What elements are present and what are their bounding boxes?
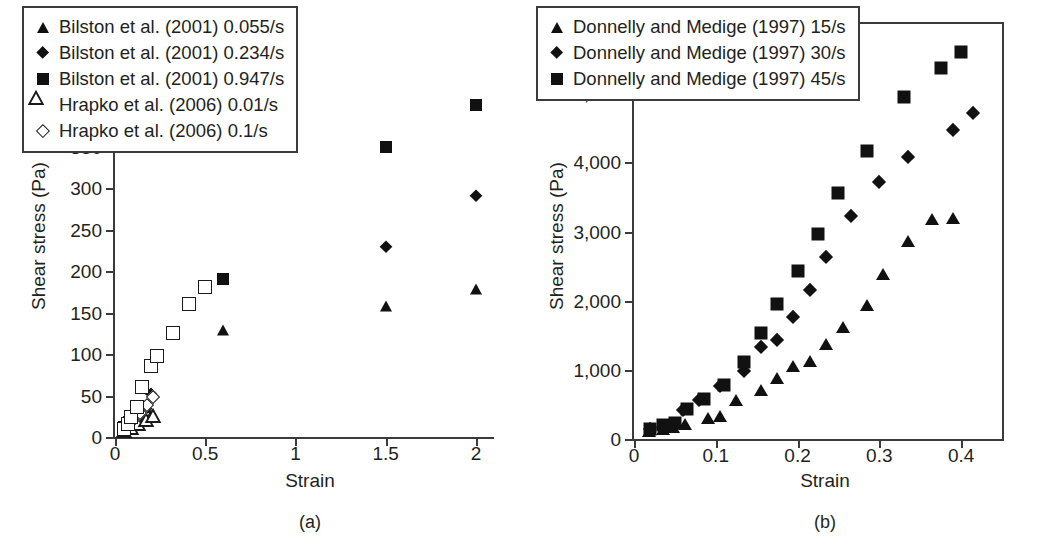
- triangle-filled-icon: [33, 22, 53, 33]
- y-axis-tick-label: 300: [70, 179, 102, 198]
- data-point: [754, 340, 768, 354]
- legend-item-label: Bilston et al. (2001) 0.234/s: [59, 44, 284, 63]
- data-point: [198, 280, 212, 294]
- data-point: [770, 333, 784, 347]
- x-axis-tick-label: 0.3: [866, 446, 892, 465]
- x-axis-tick-label: 0.4: [948, 446, 974, 465]
- data-point: [738, 355, 751, 368]
- tick-mark: [625, 232, 634, 234]
- data-point: [182, 297, 196, 311]
- data-point: [860, 299, 874, 311]
- data-point: [150, 349, 164, 363]
- x-axis-tick-label: 0.5: [192, 444, 218, 463]
- legend-item: Bilston et al. (2001) 0.055/s: [33, 14, 284, 40]
- data-point: [644, 422, 657, 435]
- data-point: [130, 400, 144, 414]
- tick-mark: [106, 188, 115, 190]
- legend-item-label: Bilston et al. (2001) 0.055/s: [59, 18, 284, 37]
- data-point: [897, 90, 910, 103]
- data-point: [786, 310, 800, 324]
- data-point: [135, 380, 149, 394]
- tick-mark: [106, 437, 115, 439]
- x-axis-tick-label: 0.2: [784, 446, 810, 465]
- data-point: [754, 327, 767, 340]
- data-point: [819, 250, 833, 264]
- data-point: [925, 213, 939, 225]
- panel-caption-a: (a): [0, 512, 520, 533]
- legend-item: Hrapko et al. (2006) 0.01/s: [33, 92, 284, 118]
- y-axis-tick-label: 3,000: [573, 222, 621, 241]
- square-filled-icon: [33, 73, 53, 85]
- x-axis-tick-label: 1.5: [372, 444, 398, 463]
- data-point: [217, 324, 229, 335]
- y-axis-label-b: Shear stress (Pa): [546, 162, 568, 310]
- y-axis-tick-label: 100: [70, 345, 102, 364]
- y-axis-tick-label: 150: [70, 303, 102, 322]
- legend-item-label: Hrapko et al. (2006) 0.1/s: [59, 122, 268, 141]
- x-axis-tick-label: 0: [629, 446, 640, 465]
- figure-container: 05010015020025030035040045050000.511.52 …: [0, 0, 1040, 554]
- tick-mark: [106, 271, 115, 273]
- data-point: [681, 403, 694, 416]
- legend-item: Donnelly and Medige (1997) 30/s: [547, 40, 846, 66]
- data-point: [803, 283, 817, 297]
- panel-a: 05010015020025030035040045050000.511.52 …: [0, 0, 520, 554]
- panel-caption-b: (b): [520, 512, 1040, 533]
- data-point: [380, 300, 392, 311]
- data-point: [836, 321, 850, 333]
- square-filled-icon: [547, 73, 567, 85]
- data-point: [812, 228, 825, 241]
- data-point: [470, 99, 482, 111]
- x-axis-tick-label: 1: [290, 444, 301, 463]
- tick-mark: [625, 439, 634, 441]
- y-axis-tick-label: 250: [70, 220, 102, 239]
- data-point: [955, 46, 968, 59]
- x-axis-tick-label: 0.1: [703, 446, 729, 465]
- data-point: [380, 141, 392, 153]
- tick-mark: [106, 354, 115, 356]
- data-point: [469, 190, 482, 203]
- data-point: [791, 264, 804, 277]
- panel-b: 01,0002,0003,0004,0005,0006,00000.10.20.…: [520, 0, 1040, 554]
- data-point: [668, 417, 681, 430]
- data-point: [697, 392, 710, 405]
- y-axis-tick-label: 50: [81, 386, 102, 405]
- y-axis-tick-label: 1,000: [573, 360, 621, 379]
- data-point: [729, 394, 743, 406]
- legend-item-label: Donnelly and Medige (1997) 30/s: [573, 44, 846, 63]
- data-point: [379, 240, 392, 253]
- y-axis-label-a: Shear stress (Pa): [28, 162, 50, 310]
- data-point: [217, 273, 229, 285]
- tick-mark: [106, 230, 115, 232]
- data-point: [803, 355, 817, 367]
- data-point: [872, 175, 886, 189]
- triangle-open-icon: [33, 98, 53, 113]
- legend-b: Donnelly and Medige (1997) 15/sDonnelly …: [536, 6, 860, 101]
- diamond-filled-icon: [547, 48, 567, 57]
- data-point: [819, 338, 833, 350]
- x-axis-label-a: Strain: [0, 470, 520, 492]
- data-point: [946, 212, 960, 224]
- data-point: [166, 326, 180, 340]
- triangle-filled-icon: [547, 22, 567, 33]
- data-point: [771, 298, 784, 311]
- tick-mark: [106, 313, 115, 315]
- data-point: [754, 384, 768, 396]
- legend-item-label: Donnelly and Medige (1997) 45/s: [573, 70, 846, 89]
- data-point: [876, 268, 890, 280]
- tick-mark: [625, 301, 634, 303]
- y-axis-tick-label: 2,000: [573, 291, 621, 310]
- data-point: [934, 61, 947, 74]
- data-point: [717, 379, 730, 392]
- legend-item-label: Donnelly and Medige (1997) 15/s: [573, 18, 846, 37]
- tick-mark: [625, 370, 634, 372]
- data-point: [786, 360, 800, 372]
- y-axis-tick-label: 0: [91, 428, 102, 447]
- legend-item-label: Hrapko et al. (2006) 0.01/s: [59, 96, 278, 115]
- data-point: [770, 372, 784, 384]
- data-point: [901, 150, 915, 164]
- data-point: [713, 410, 727, 422]
- x-axis-label-b: Strain: [520, 470, 1040, 492]
- legend-a: Bilston et al. (2001) 0.055/sBilston et …: [22, 6, 298, 153]
- tick-mark: [625, 162, 634, 164]
